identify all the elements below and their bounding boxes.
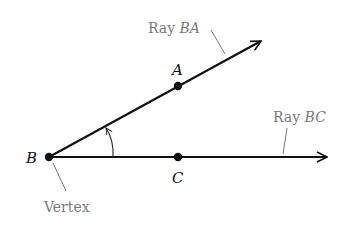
ray-ba-callout-name: BA [179, 20, 200, 36]
ray-bc-leader-line [283, 128, 287, 154]
ray-bc-callout: Ray BC [273, 109, 326, 125]
ray-ba-callout: Ray BA [148, 20, 200, 36]
ray-bc-callout-prefix: Ray [273, 109, 305, 125]
point-a-label: A [170, 61, 183, 79]
point-c-label: C [172, 169, 184, 187]
point-c-dot [174, 153, 182, 161]
point-b-label: B [25, 149, 37, 167]
ray-ba-line [49, 41, 261, 157]
ray-bc-callout-name: BC [304, 109, 327, 125]
vertex-leader-line [53, 163, 66, 191]
angle-diagram: B A C Ray BA Ray BC Vertex [0, 0, 353, 227]
ray-ba-leader-line [211, 30, 225, 54]
ray-ba-callout-prefix: Ray [148, 20, 180, 36]
angle-arc-arrow-icon [106, 128, 113, 157]
point-a-dot [174, 82, 182, 90]
point-b-dot [45, 153, 53, 161]
vertex-callout: Vertex [43, 199, 90, 215]
